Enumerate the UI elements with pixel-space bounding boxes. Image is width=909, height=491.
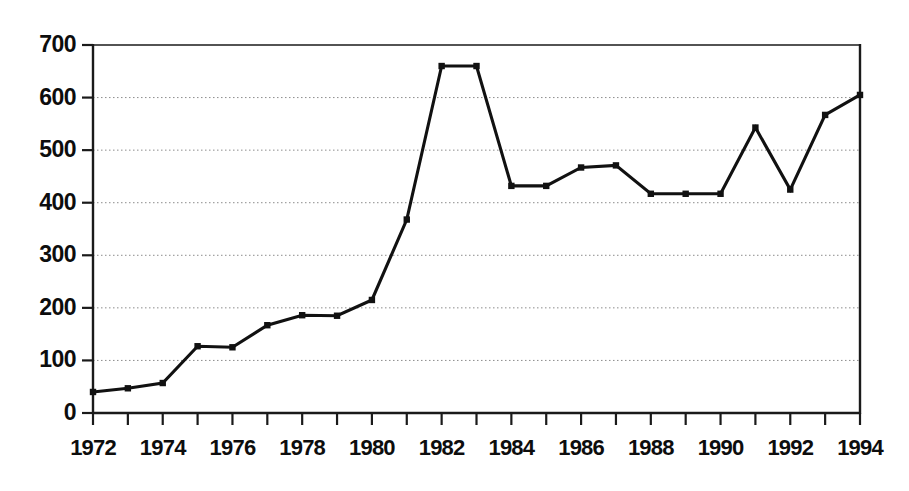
data-point-1981 xyxy=(404,216,410,222)
data-point-1992 xyxy=(787,186,793,192)
data-point-1972 xyxy=(90,389,96,395)
y-tick-label-400: 400 xyxy=(10,191,76,214)
ticks-group xyxy=(82,45,860,425)
y-tick-label-700: 700 xyxy=(10,33,76,56)
y-tick-label-100: 100 xyxy=(10,348,76,371)
data-point-1978 xyxy=(299,312,305,318)
data-point-1984 xyxy=(508,183,514,189)
data-point-1993 xyxy=(822,112,828,118)
y-tick-label-300: 300 xyxy=(10,243,76,266)
data-point-1990 xyxy=(717,191,723,197)
y-tick-label-200: 200 xyxy=(10,296,76,319)
data-point-1980 xyxy=(369,297,375,303)
x-tick-label-1994: 1994 xyxy=(815,437,905,459)
series-group xyxy=(93,66,860,392)
data-point-1973 xyxy=(125,385,131,391)
line-chart: 0100200300400500600700 19721974197619781… xyxy=(0,0,909,491)
data-line xyxy=(93,66,860,392)
data-point-1983 xyxy=(473,63,479,69)
data-point-1987 xyxy=(613,162,619,168)
data-point-1975 xyxy=(194,343,200,349)
data-point-1991 xyxy=(752,124,758,130)
data-point-1974 xyxy=(160,380,166,386)
data-point-1976 xyxy=(229,344,235,350)
axes-group xyxy=(92,44,861,414)
data-point-1985 xyxy=(543,183,549,189)
gridlines-group xyxy=(93,98,860,361)
data-point-1989 xyxy=(682,191,688,197)
y-tick-label-500: 500 xyxy=(10,138,76,161)
data-point-1986 xyxy=(578,164,584,170)
y-tick-label-600: 600 xyxy=(10,86,76,109)
chart-plot-area xyxy=(0,0,909,491)
y-tick-label-0: 0 xyxy=(10,401,76,424)
data-point-1977 xyxy=(264,322,270,328)
data-point-1994 xyxy=(857,92,863,98)
data-point-1979 xyxy=(334,313,340,319)
data-point-1988 xyxy=(648,191,654,197)
data-point-1982 xyxy=(438,63,444,69)
